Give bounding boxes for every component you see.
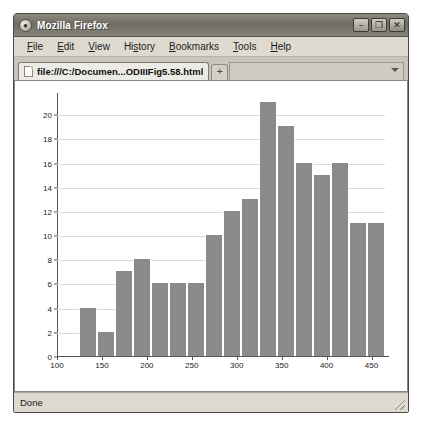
histogram-bar bbox=[277, 126, 295, 356]
browser-window: ● Mozilla Firefox – ❐ ✕ File Edit View H… bbox=[13, 13, 409, 413]
y-axis-line bbox=[57, 93, 58, 357]
menu-item-tools[interactable]: Tools bbox=[226, 40, 263, 53]
tab-strip: file:///C:/Documen...ODIIIFig5.58.html + bbox=[14, 57, 408, 81]
y-axis-tick-label: 12 bbox=[43, 207, 52, 216]
histogram-bar bbox=[79, 308, 97, 356]
x-axis-tick-mark bbox=[237, 357, 238, 360]
histogram-bar bbox=[331, 163, 349, 356]
histogram-bar bbox=[295, 163, 313, 356]
maximize-icon: ❐ bbox=[372, 19, 386, 31]
maximize-button[interactable]: ❐ bbox=[371, 18, 387, 32]
page-content: 0246810121416182010015020025030035040045… bbox=[14, 81, 408, 392]
x-axis-tick-label: 150 bbox=[95, 361, 108, 370]
title-bar[interactable]: ● Mozilla Firefox – ❐ ✕ bbox=[14, 14, 408, 37]
y-axis-tick-mark bbox=[54, 163, 57, 164]
histogram-bar bbox=[349, 223, 367, 356]
histogram-bar bbox=[259, 102, 277, 356]
y-axis-tick-label: 2 bbox=[48, 328, 52, 337]
x-axis-tick-label: 100 bbox=[50, 361, 63, 370]
y-axis-tick-mark bbox=[54, 236, 57, 237]
tab-title: file:///C:/Documen...ODIIIFig5.58.html bbox=[37, 66, 203, 77]
menu-item-help[interactable]: Help bbox=[263, 40, 298, 53]
y-axis-tick-label: 8 bbox=[48, 256, 52, 265]
tab-strip-empty-area[interactable] bbox=[229, 62, 404, 80]
histogram-bar bbox=[133, 259, 151, 356]
y-axis-tick-mark bbox=[54, 284, 57, 285]
y-axis-tick-mark bbox=[54, 260, 57, 261]
firefox-icon: ● bbox=[19, 19, 32, 32]
x-axis-tick-mark bbox=[57, 357, 58, 360]
y-axis-tick-mark bbox=[54, 115, 57, 116]
close-icon: ✕ bbox=[390, 19, 404, 31]
x-axis-tick-mark bbox=[102, 357, 103, 360]
x-axis-tick-label: 400 bbox=[320, 361, 333, 370]
histogram-bar bbox=[169, 283, 187, 356]
new-tab-button[interactable]: + bbox=[211, 64, 228, 80]
histogram-bar bbox=[97, 332, 115, 356]
status-text: Done bbox=[20, 397, 43, 408]
x-axis-tick-mark bbox=[327, 357, 328, 360]
histogram-bar bbox=[187, 283, 205, 356]
y-axis-tick-mark bbox=[54, 187, 57, 188]
histogram-bar bbox=[313, 175, 331, 356]
histogram-bar bbox=[205, 235, 223, 356]
y-axis-tick-label: 20 bbox=[43, 111, 52, 120]
chevron-down-icon[interactable] bbox=[391, 68, 399, 72]
y-axis-tick-mark bbox=[54, 139, 57, 140]
plot-area: 0246810121416182010015020025030035040045… bbox=[57, 97, 385, 357]
gridline bbox=[57, 115, 385, 116]
histogram-bar bbox=[115, 271, 133, 356]
x-axis-tick-label: 300 bbox=[230, 361, 243, 370]
tab-active[interactable]: file:///C:/Documen...ODIIIFig5.58.html bbox=[18, 62, 209, 80]
menu-item-file[interactable]: File bbox=[20, 40, 50, 53]
y-axis-tick-label: 16 bbox=[43, 159, 52, 168]
gridline bbox=[57, 139, 385, 140]
y-axis-tick-mark bbox=[54, 308, 57, 309]
menu-item-view[interactable]: View bbox=[81, 40, 117, 53]
y-axis-tick-label: 14 bbox=[43, 183, 52, 192]
x-axis-tick-label: 250 bbox=[185, 361, 198, 370]
close-button[interactable]: ✕ bbox=[389, 18, 405, 32]
y-axis-tick-label: 10 bbox=[43, 232, 52, 241]
minimize-icon: – bbox=[354, 19, 368, 31]
histogram-chart: 0246810121416182010015020025030035040045… bbox=[15, 81, 407, 391]
y-axis-tick-label: 18 bbox=[43, 135, 52, 144]
y-axis-tick-mark bbox=[54, 211, 57, 212]
x-axis-tick-mark bbox=[372, 357, 373, 360]
y-axis-tick-label: 4 bbox=[48, 304, 52, 313]
histogram-bar bbox=[241, 199, 259, 356]
x-axis-tick-mark bbox=[147, 357, 148, 360]
menu-item-bookmarks[interactable]: Bookmarks bbox=[162, 40, 226, 53]
status-bar: Done bbox=[14, 392, 408, 412]
minimize-button[interactable]: – bbox=[353, 18, 369, 32]
menu-bar: File Edit View History Bookmarks Tools H… bbox=[14, 37, 408, 57]
x-axis-line bbox=[57, 356, 389, 357]
histogram-bar bbox=[223, 211, 241, 356]
x-axis-tick-mark bbox=[192, 357, 193, 360]
x-axis-tick-label: 350 bbox=[275, 361, 288, 370]
menu-item-edit[interactable]: Edit bbox=[50, 40, 81, 53]
resize-grip[interactable] bbox=[395, 400, 405, 410]
window-title: Mozilla Firefox bbox=[37, 20, 351, 31]
x-axis-tick-mark bbox=[282, 357, 283, 360]
y-axis-tick-label: 6 bbox=[48, 280, 52, 289]
x-axis-tick-label: 450 bbox=[365, 361, 378, 370]
histogram-bar bbox=[151, 283, 169, 356]
y-axis-tick-mark bbox=[54, 332, 57, 333]
menu-item-history[interactable]: History bbox=[117, 40, 162, 53]
x-axis-tick-label: 200 bbox=[140, 361, 153, 370]
histogram-bar bbox=[367, 223, 385, 356]
page-icon bbox=[24, 66, 33, 77]
